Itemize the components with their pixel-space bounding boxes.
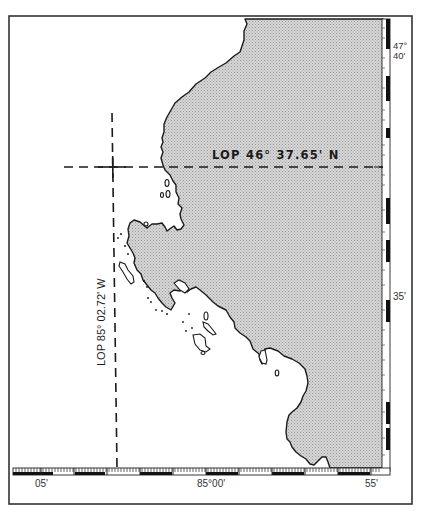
longitude-scale-bar — [13, 468, 390, 475]
lop-latitude-label: LOP 46° 37.65' N — [212, 148, 340, 162]
lon-label-55-min: 55' — [365, 479, 378, 489]
lat-label-40-min: 40' — [393, 51, 405, 61]
nautical-chart — [0, 0, 426, 511]
lat-label-35-min: 35' — [393, 292, 406, 302]
lon-label-05-min: 05' — [35, 479, 48, 489]
latitude-scale-bar — [382, 19, 390, 471]
lop-longitude-label: LOP 85° 02.72' W — [95, 278, 107, 366]
lon-label-85-00: 85°00' — [197, 479, 225, 489]
